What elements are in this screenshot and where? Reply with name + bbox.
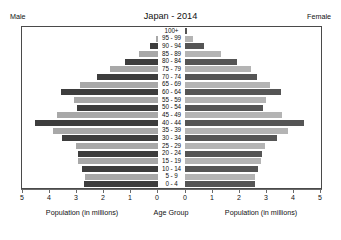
female-bar bbox=[185, 74, 257, 80]
female-bar bbox=[185, 105, 263, 111]
male-bar-cell bbox=[22, 65, 158, 73]
male-bar bbox=[74, 97, 158, 103]
female-bar bbox=[185, 28, 187, 34]
axis-tick-label: 3 bbox=[74, 194, 78, 201]
female-bar bbox=[185, 112, 282, 118]
male-bar bbox=[53, 128, 158, 134]
age-group-label: 0 - 4 bbox=[158, 181, 185, 187]
female-bar bbox=[185, 174, 255, 180]
axis-tick bbox=[212, 189, 213, 193]
axis-tick-label: 0 bbox=[183, 194, 187, 201]
axis-tick bbox=[76, 189, 77, 193]
male-bar-cell bbox=[22, 173, 158, 181]
male-bar bbox=[80, 82, 158, 88]
male-bar bbox=[62, 135, 158, 141]
female-bar-cell bbox=[185, 50, 321, 58]
male-bar bbox=[85, 174, 158, 180]
male-bar-cell bbox=[22, 165, 158, 173]
age-group-label: 80 - 84 bbox=[158, 58, 185, 64]
axis-tick-label: 4 bbox=[47, 194, 51, 201]
axis-tick-label: 4 bbox=[291, 194, 295, 201]
age-group-label: 95 - 99 bbox=[158, 35, 185, 41]
female-bar bbox=[185, 89, 281, 95]
female-bar-cell bbox=[185, 58, 321, 66]
age-group-label: 20 - 24 bbox=[158, 150, 185, 156]
age-group-label: 10 - 14 bbox=[158, 166, 185, 172]
female-bar bbox=[185, 158, 261, 164]
axis-tick-label: 2 bbox=[237, 194, 241, 201]
age-group-label: 50 - 54 bbox=[158, 104, 185, 110]
age-group-label: 90 - 94 bbox=[158, 43, 185, 49]
male-bar-cell bbox=[22, 134, 158, 142]
age-group-label: 35 - 39 bbox=[158, 127, 185, 133]
male-bar bbox=[61, 89, 158, 95]
male-bar-cell bbox=[22, 104, 158, 112]
female-bar bbox=[185, 128, 288, 134]
plot-area: 100+95 - 9990 - 9485 - 8980 - 8475 - 797… bbox=[21, 26, 322, 189]
female-bar bbox=[185, 97, 266, 103]
age-group-label: 40 - 44 bbox=[158, 120, 185, 126]
male-bar-cell bbox=[22, 142, 158, 150]
female-bar bbox=[185, 36, 193, 42]
female-bar-cell bbox=[185, 104, 321, 112]
female-bar bbox=[185, 66, 251, 72]
male-bar bbox=[57, 112, 158, 118]
axis-tick bbox=[130, 189, 131, 193]
axis-tick-label: 5 bbox=[20, 194, 24, 201]
male-bar bbox=[97, 74, 158, 80]
pyramid-row: 60 - 64 bbox=[22, 88, 321, 96]
female-bar-cell bbox=[185, 65, 321, 73]
female-bar-cell bbox=[185, 180, 321, 188]
male-bar bbox=[82, 166, 158, 172]
male-bar bbox=[110, 66, 158, 72]
female-bar bbox=[185, 166, 258, 172]
male-bar bbox=[139, 51, 158, 57]
female-bar-cell bbox=[185, 42, 321, 50]
axis-tick-label: 0 bbox=[155, 194, 159, 201]
age-group-label: 100+ bbox=[158, 28, 185, 34]
female-bar-cell bbox=[185, 127, 321, 135]
pyramid-row: 45 - 49 bbox=[22, 111, 321, 119]
axis-tick bbox=[320, 189, 321, 193]
x-axis-line bbox=[21, 189, 322, 190]
female-bar bbox=[185, 120, 304, 126]
age-group-label: 65 - 69 bbox=[158, 81, 185, 87]
age-group-label: 25 - 29 bbox=[158, 143, 185, 149]
right-axis-caption: Population (in millions) bbox=[225, 208, 297, 217]
bar-rows-container: 100+95 - 9990 - 9485 - 8980 - 8475 - 797… bbox=[22, 27, 321, 188]
female-bar bbox=[185, 43, 204, 49]
male-bar bbox=[78, 158, 158, 164]
female-bar-cell bbox=[185, 157, 321, 165]
male-bar bbox=[77, 105, 158, 111]
axis-tick bbox=[103, 189, 104, 193]
left-axis-caption: Population (in millions) bbox=[46, 208, 118, 217]
male-bar-cell bbox=[22, 73, 158, 81]
female-bar bbox=[185, 82, 270, 88]
pyramid-row: 90 - 94 bbox=[22, 42, 321, 50]
axis-tick bbox=[22, 189, 23, 193]
male-bar-cell bbox=[22, 111, 158, 119]
female-bar-cell bbox=[185, 81, 321, 89]
axis-tick-label: 1 bbox=[128, 194, 132, 201]
female-bar-cell bbox=[185, 165, 321, 173]
female-bar bbox=[185, 143, 265, 149]
age-group-label: 85 - 89 bbox=[158, 51, 185, 57]
female-bar-cell bbox=[185, 96, 321, 104]
male-bar-cell bbox=[22, 42, 158, 50]
axis-tick-label: 1 bbox=[210, 194, 214, 201]
female-bar bbox=[185, 181, 255, 187]
male-bar-cell bbox=[22, 119, 158, 127]
female-bar-cell bbox=[185, 111, 321, 119]
female-bar-cell bbox=[185, 142, 321, 150]
male-bar-cell bbox=[22, 157, 158, 165]
female-bar bbox=[185, 151, 262, 157]
female-bar-cell bbox=[185, 173, 321, 181]
age-group-label: 5 - 9 bbox=[158, 173, 185, 179]
axis-tick-label: 5 bbox=[318, 194, 322, 201]
pyramid-row: 0 - 4 bbox=[22, 180, 321, 188]
center-axis-caption: Age Group bbox=[154, 208, 189, 217]
male-bar bbox=[78, 151, 158, 157]
male-bar-cell bbox=[22, 88, 158, 96]
female-bar-cell bbox=[185, 27, 321, 35]
female-bar bbox=[185, 51, 221, 57]
